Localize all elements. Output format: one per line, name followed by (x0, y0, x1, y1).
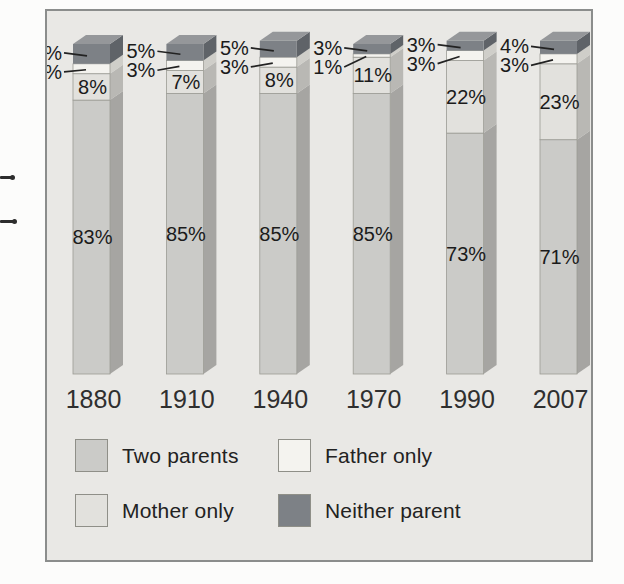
legend-item-mother-only: Mother only (75, 494, 234, 527)
legend-label-two-parents: Two parents (122, 444, 239, 468)
legend-swatch-father-only (278, 439, 311, 472)
legend-swatch-neither-parent (278, 494, 311, 527)
chart-legend: Two parents Father only Mother only Neit… (47, 11, 591, 560)
figure-frame: 83%8%6%3%188085%7%5%3%191085%8%5%3%19408… (45, 9, 593, 562)
margin-mark-bottom (0, 220, 15, 223)
legend-swatch-two-parents (75, 439, 108, 472)
margin-mark-top (0, 176, 13, 179)
legend-item-two-parents: Two parents (75, 439, 239, 472)
legend-label-father-only: Father only (325, 444, 432, 468)
legend-swatch-mother-only (75, 494, 108, 527)
legend-label-neither-parent: Neither parent (325, 499, 461, 523)
figure-page: 83%8%6%3%188085%7%5%3%191085%8%5%3%19408… (0, 0, 624, 584)
legend-item-neither-parent: Neither parent (278, 494, 461, 527)
legend-item-father-only: Father only (278, 439, 432, 472)
legend-label-mother-only: Mother only (122, 499, 234, 523)
